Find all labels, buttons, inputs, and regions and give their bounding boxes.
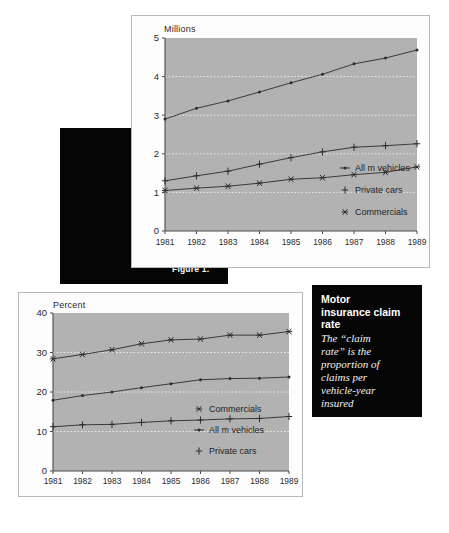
callout-motor-insurance-claim-rate: Motor insurance claim rate The “claim ra… — [312, 285, 422, 417]
y-tick-label: 5 — [154, 32, 159, 43]
x-tick-label: 1985 — [162, 476, 181, 486]
y-tick-label: 2 — [154, 148, 159, 159]
x-tick-label: 1981 — [156, 237, 175, 247]
legend-label: Commercials — [209, 404, 262, 414]
marker-dot — [353, 62, 356, 65]
marker-dot — [195, 107, 198, 110]
plot-background — [165, 38, 417, 231]
x-tick-label: 1984 — [132, 476, 151, 486]
x-tick-label: 1987 — [345, 237, 364, 247]
y-tick-label: 0 — [42, 465, 47, 476]
marker-dot — [288, 375, 291, 378]
y-tick-label: 3 — [154, 110, 159, 121]
x-tick-label: 1989 — [408, 237, 427, 247]
claim-rate-chart-plot: 0102030401981198219831984198519861987198… — [19, 293, 302, 496]
y-tick-label: 20 — [36, 386, 47, 397]
marker-dot — [199, 378, 202, 381]
y-tick-label: 30 — [36, 347, 47, 358]
callout-right-body-line-2: rate” is the — [321, 345, 380, 358]
x-tick-label: 1983 — [103, 476, 122, 486]
callout-right-body-line-4: claims per — [321, 371, 380, 384]
callout-right-body-line-6: insured — [321, 397, 380, 410]
legend-marker-dot — [198, 429, 201, 432]
marker-dot — [140, 386, 143, 389]
x-tick-label: 1982 — [73, 476, 92, 486]
marker-dot — [52, 399, 55, 402]
callout-right-title-line-1: Motor — [321, 293, 400, 306]
legend-label: Private cars — [209, 446, 257, 456]
callout-right-body-line-3: proportion of — [321, 358, 380, 371]
x-tick-label: 1983 — [219, 237, 238, 247]
x-tick-label: 1987 — [221, 476, 240, 486]
x-tick-label: 1985 — [282, 237, 301, 247]
claims-chart-plot: 0123451981198219831984198519861987198819… — [132, 16, 429, 267]
marker-dot — [111, 391, 114, 394]
marker-dot — [227, 99, 230, 102]
callout-right-title-line-2: insurance claim — [321, 306, 400, 319]
callout-right-body: The “claim rate” is the proportion of cl… — [321, 332, 380, 410]
y-tick-label: 40 — [36, 307, 47, 318]
legend-marker-dot — [344, 167, 347, 170]
callout-right-title: Motor insurance claim rate — [321, 293, 400, 331]
marker-dot — [81, 394, 84, 397]
marker-dot — [384, 57, 387, 60]
x-tick-label: 1986 — [313, 237, 332, 247]
x-tick-label: 1981 — [44, 476, 63, 486]
marker-dot — [164, 118, 167, 121]
marker-dot — [290, 81, 293, 84]
legend-label: Private cars — [355, 185, 403, 195]
x-tick-label: 1989 — [280, 476, 299, 486]
callout-right-body-line-1: The “claim — [321, 332, 380, 345]
y-tick-label: 10 — [36, 426, 47, 437]
x-tick-label: 1988 — [376, 237, 395, 247]
x-tick-label: 1986 — [191, 476, 210, 486]
marker-dot — [170, 382, 173, 385]
legend-label: All m vehicles — [355, 163, 411, 173]
y-tick-label: 4 — [154, 71, 159, 82]
x-tick-label: 1988 — [250, 476, 269, 486]
legend-label: Commercials — [355, 207, 408, 217]
marker-dot — [229, 377, 232, 380]
claims-chart-panel: Millions 0123451981198219831984198519861… — [131, 15, 430, 268]
callout-right-title-line-3: rate — [321, 318, 400, 331]
marker-dot — [258, 91, 261, 94]
y-tick-label: 0 — [154, 225, 159, 236]
claim-rate-chart-panel: Percent 01020304019811982198319841985198… — [18, 292, 303, 497]
x-tick-label: 1984 — [250, 237, 269, 247]
marker-dot — [416, 48, 419, 51]
marker-dot — [258, 377, 261, 380]
marker-dot — [321, 73, 324, 76]
callout-right-body-line-5: vehicle-year — [321, 384, 380, 397]
legend-label: All m vehicles — [209, 425, 265, 435]
x-tick-label: 1982 — [187, 237, 206, 247]
y-tick-label: 1 — [154, 187, 159, 198]
